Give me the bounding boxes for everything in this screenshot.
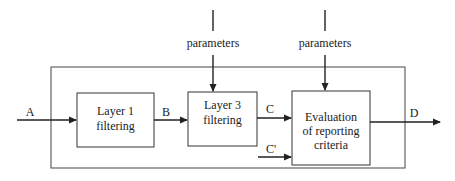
param-label-right: parameters <box>299 36 352 50</box>
layer3-label-line1: Layer 3 <box>204 98 241 112</box>
reporting-pipeline-diagram: parameters parameters A Layer 1 filterin… <box>0 0 455 181</box>
eval-label-line2: of reporting <box>303 124 360 138</box>
eval-label-line1: Evaluation <box>305 110 357 124</box>
edge-c-label: C <box>266 102 274 116</box>
layer3-label-line2: filtering <box>203 113 242 127</box>
edge-c-prime-label: C' <box>266 142 276 156</box>
edge-d-label: D <box>410 106 419 120</box>
layer1-label-line1: Layer 1 <box>97 104 134 118</box>
edge-a-label: A <box>26 105 35 119</box>
layer1-label-line2: filtering <box>96 119 135 133</box>
param-label-left: parameters <box>187 36 240 50</box>
edge-b-label: B <box>162 105 170 119</box>
eval-label-line3: criteria <box>314 138 349 152</box>
